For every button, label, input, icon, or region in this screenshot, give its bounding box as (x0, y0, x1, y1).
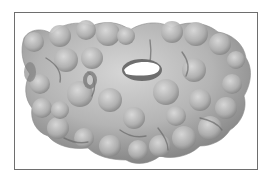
protein-surface-image (0, 0, 270, 182)
